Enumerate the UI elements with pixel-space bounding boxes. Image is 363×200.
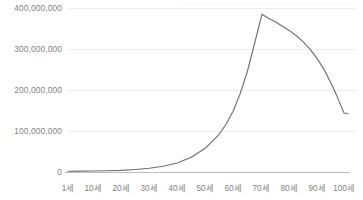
- y-axis-tick-label-400000000: 400,000,000: [0, 4, 62, 12]
- chart-container: 400,000,000 300,000,000 200,000,000 100,…: [0, 0, 363, 200]
- y-axis-tick-label-100000000: 100,000,000: [0, 127, 62, 135]
- x-axis-tick-label-100: 100세: [325, 185, 363, 193]
- y-axis-tick-label-0: 0: [0, 168, 62, 176]
- gridlines-group: [68, 9, 356, 132]
- y-axis-tick-label-300000000: 300,000,000: [0, 45, 62, 53]
- y-axis-tick-label-200000000: 200,000,000: [0, 86, 62, 94]
- data-series-line: [68, 14, 348, 171]
